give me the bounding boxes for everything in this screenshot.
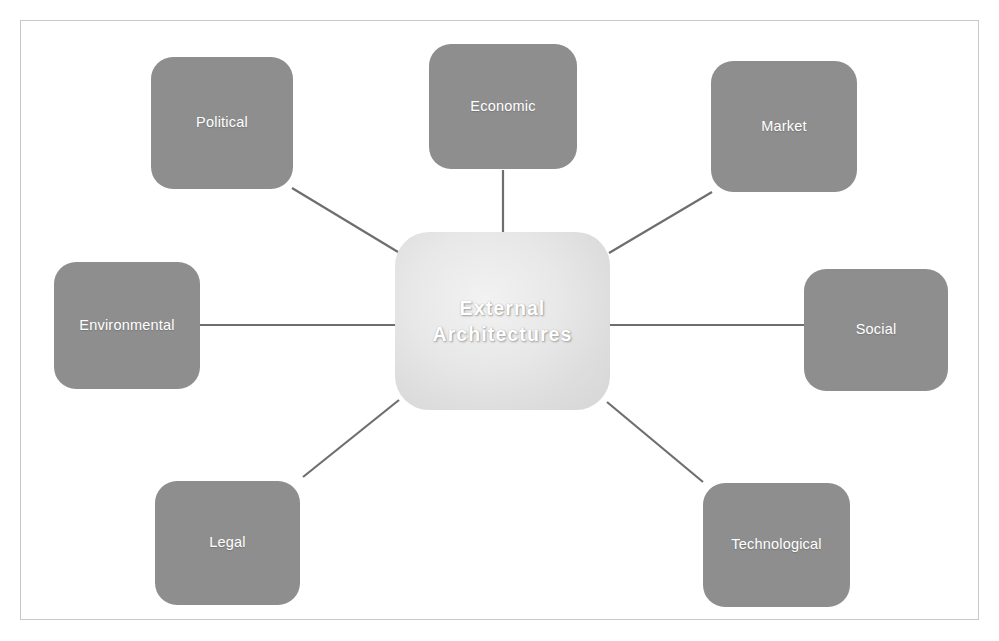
node-environmental-label: Environmental: [73, 317, 180, 334]
node-market-label: Market: [755, 118, 813, 135]
diagram-canvas: Political Economic Market Environmental …: [0, 0, 999, 641]
node-social[interactable]: Social: [804, 269, 948, 391]
edge-political: [292, 188, 398, 252]
edge-technological: [607, 402, 703, 482]
node-technological[interactable]: Technological: [703, 483, 850, 607]
node-legal-label: Legal: [203, 534, 251, 551]
node-environmental[interactable]: Environmental: [54, 262, 200, 389]
node-economic-label: Economic: [464, 98, 541, 115]
node-social-label: Social: [850, 321, 903, 338]
node-market[interactable]: Market: [711, 61, 857, 192]
node-political-label: Political: [190, 114, 254, 131]
node-technological-label: Technological: [725, 536, 827, 553]
edge-legal: [303, 400, 399, 477]
node-economic[interactable]: Economic: [429, 44, 577, 169]
center-node-label: External Architectures: [422, 295, 582, 348]
center-node-label-line2: Architectures: [432, 323, 572, 345]
node-external-architectures[interactable]: External Architectures: [395, 232, 610, 410]
node-political[interactable]: Political: [151, 57, 293, 189]
center-node-label-line1: External: [460, 297, 546, 319]
node-legal[interactable]: Legal: [155, 481, 300, 605]
edge-market: [609, 192, 712, 253]
